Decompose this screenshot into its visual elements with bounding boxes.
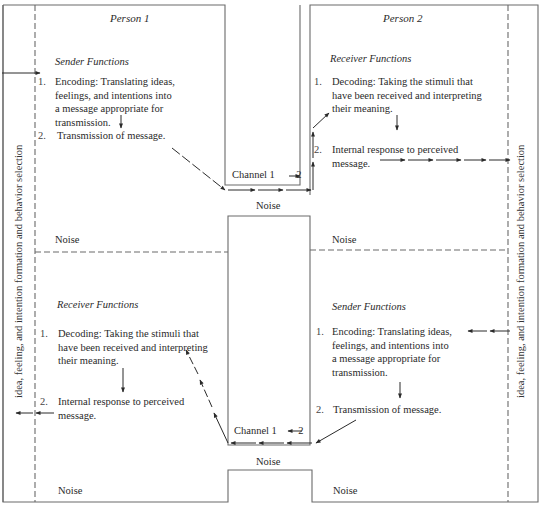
- person1-sender-heading: Sender Functions: [55, 55, 129, 68]
- noise-label: Noise: [58, 484, 83, 497]
- noise-label: Noise: [55, 233, 80, 246]
- person2-encoding-text: Encoding: Translating ideas, feelings, a…: [332, 325, 452, 379]
- person2-receiver-heading: Receiver Functions: [330, 52, 411, 65]
- item-number: 1.: [38, 75, 46, 88]
- person1-transmission-text: Transmission of message.: [57, 129, 165, 143]
- item-number: 1.: [314, 75, 322, 88]
- person1-receiver-heading: Receiver Functions: [57, 298, 138, 311]
- person1-title: Person 1: [110, 12, 149, 25]
- person2-decoding-text: Decoding: Taking the stimuli that have b…: [332, 75, 482, 116]
- person1-side-label: idea, feeling, and intention formation a…: [13, 145, 24, 398]
- lower-channel-noise: Noise: [256, 455, 281, 468]
- item-number: 2.: [316, 403, 324, 416]
- item-number: 1.: [316, 325, 324, 338]
- person1-encoding-text: Encoding: Translating ideas, feelings, a…: [55, 75, 175, 129]
- person1-decoding-text: Decoding: Taking the stimuli that have b…: [58, 327, 208, 368]
- person2-side-label: idea, feeling, and intention formation a…: [515, 145, 526, 398]
- upper-channel-label: Channel 1 2: [232, 168, 301, 181]
- noise-label: Noise: [332, 233, 357, 246]
- person2-title: Person 2: [383, 12, 422, 25]
- person1-internal-response-text: Internal response to perceived message.: [58, 395, 184, 422]
- item-number: 2.: [314, 143, 322, 156]
- item-number: 2.: [40, 395, 48, 408]
- upper-channel-noise: Noise: [256, 199, 281, 212]
- lower-channel-box: [228, 216, 310, 445]
- communication-model-diagram: Person 1 Person 2 Sender Functions 1. En…: [0, 0, 542, 508]
- lower-channel-label: Channel 1 2: [234, 424, 303, 437]
- item-number: 2.: [38, 129, 46, 142]
- person2-internal-response-text: Internal response to perceived message.: [332, 143, 458, 170]
- person2-sender-heading: Sender Functions: [332, 300, 406, 313]
- item-number: 1.: [40, 327, 48, 340]
- noise-label: Noise: [333, 484, 358, 497]
- person2-transmission-text: Transmission of message.: [333, 403, 441, 417]
